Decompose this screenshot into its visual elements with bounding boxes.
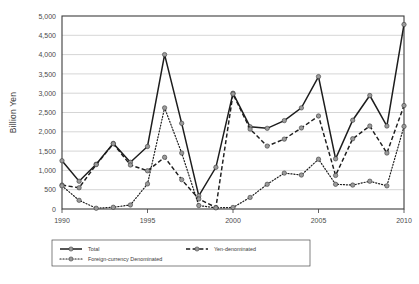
legend-marker <box>195 247 199 251</box>
data-point <box>111 142 115 146</box>
data-point <box>231 92 235 96</box>
data-point <box>385 151 389 155</box>
data-point <box>351 137 355 141</box>
data-point <box>145 144 149 148</box>
data-point <box>368 179 372 183</box>
y-axis-tick-label: 0 <box>52 206 56 213</box>
data-point <box>94 206 98 210</box>
data-point <box>299 173 303 177</box>
chart-legend: TotalYen-denominatedForeign-currency Den… <box>52 240 310 266</box>
data-point <box>385 124 389 128</box>
data-point <box>248 195 252 199</box>
legend-label: Total <box>88 246 99 252</box>
chart-figure: 05001,0001,5002,0002,5003,0003,5004,0004… <box>0 0 419 284</box>
legend-label: Foreign-currency Denominated <box>88 256 162 262</box>
data-point <box>333 182 337 186</box>
data-point <box>145 182 149 186</box>
data-point <box>214 206 218 210</box>
y-axis-tick-label: 3,000 <box>38 90 56 97</box>
y-axis-tick-label: 4,500 <box>38 32 56 39</box>
data-point <box>299 126 303 130</box>
data-point <box>162 52 166 56</box>
legend-marker <box>69 247 73 251</box>
x-axis-tick-label: 2005 <box>311 217 327 224</box>
x-axis-tick-label: 2000 <box>225 217 241 224</box>
legend-marker <box>69 257 73 261</box>
data-point <box>316 157 320 161</box>
data-point <box>128 163 132 167</box>
y-axis-tick-label: 2,000 <box>38 128 56 135</box>
data-point <box>282 137 286 141</box>
data-point <box>180 177 184 181</box>
data-point <box>265 144 269 148</box>
data-point <box>77 186 81 190</box>
data-point <box>94 162 98 166</box>
y-axis-tick-label: 3,500 <box>38 71 56 78</box>
data-point <box>248 127 252 131</box>
x-axis-tick-label: 1995 <box>140 217 156 224</box>
data-point <box>111 205 115 209</box>
x-axis-tick-label: 2010 <box>396 217 412 224</box>
data-point <box>231 205 235 209</box>
data-point <box>316 114 320 118</box>
data-point <box>60 159 64 163</box>
data-point <box>282 118 286 122</box>
data-point <box>162 155 166 159</box>
data-point <box>60 184 64 188</box>
line-chart: 05001,0001,5002,0002,5003,0003,5004,0004… <box>0 0 419 284</box>
data-point <box>351 118 355 122</box>
data-point <box>77 179 81 183</box>
data-point <box>214 165 218 169</box>
data-point <box>385 184 389 188</box>
data-point <box>299 106 303 110</box>
data-point <box>402 22 406 26</box>
data-point <box>333 157 337 161</box>
data-point <box>180 121 184 125</box>
y-axis-title: Billion Yen <box>8 92 18 134</box>
legend-box <box>52 240 310 266</box>
y-axis-tick-label: 1,000 <box>38 167 56 174</box>
data-point <box>316 74 320 78</box>
y-axis-tick-label: 4,000 <box>38 51 56 58</box>
data-point <box>145 169 149 173</box>
x-axis-tick-labels: 19901995200020052010 <box>54 217 412 224</box>
y-axis-tick-label: 2,500 <box>38 109 56 116</box>
data-point <box>333 173 337 177</box>
data-point <box>197 203 201 207</box>
y-axis-tick-label: 5,000 <box>38 13 56 20</box>
data-point <box>368 93 372 97</box>
data-point <box>402 103 406 107</box>
x-axis-tick-label: 1990 <box>54 217 70 224</box>
data-point <box>368 124 372 128</box>
data-point <box>265 126 269 130</box>
y-axis-tick-label: 1,500 <box>38 148 56 155</box>
legend-label: Yen-denominated <box>214 246 256 252</box>
data-point <box>77 198 81 202</box>
data-point <box>351 183 355 187</box>
data-point <box>128 203 132 207</box>
y-axis-tick-labels: 05001,0001,5002,0002,5003,0003,5004,0004… <box>38 13 56 213</box>
data-point <box>402 124 406 128</box>
y-axis-tick-label: 500 <box>44 186 56 193</box>
data-point <box>282 171 286 175</box>
legend-item-dashed[interactable]: Yen-denominated <box>186 246 256 252</box>
data-point <box>265 182 269 186</box>
data-point <box>180 151 184 155</box>
data-point <box>162 106 166 110</box>
